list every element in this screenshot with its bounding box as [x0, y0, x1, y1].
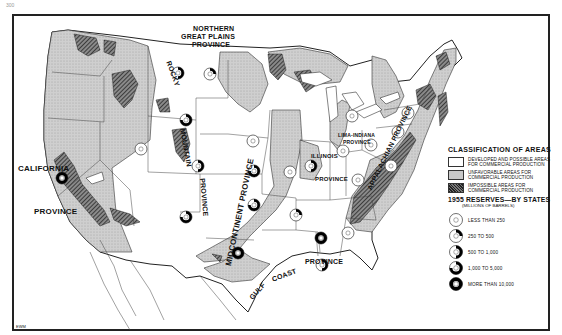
- label-illinois-province: PROVINCE: [315, 176, 348, 182]
- reserve-glyph-icon: [448, 244, 464, 260]
- reserves-legend-label: 250 TO 500: [468, 234, 494, 239]
- reserves-legend-item: 250 TO 500: [448, 228, 556, 244]
- label-california-province: PROVINCE: [34, 208, 77, 216]
- reserve-glyph-icon: [448, 212, 464, 228]
- reserve-marker-west-virginia: [385, 160, 397, 172]
- label-northern-great-plains-line2: GREAT PLAINS: [181, 33, 235, 40]
- reserves-legend-item: 1,000 TO 5,000: [448, 260, 556, 276]
- swatch-unfavorable: [448, 170, 464, 180]
- reserve-glyph-icon: [448, 260, 464, 276]
- legend-text-impossible: IMPOSSIBLE AREAS FOR COMMERCIAL PRODUCTI…: [468, 183, 556, 193]
- reserve-marker-tennessee: [342, 227, 354, 239]
- label-lima-indiana-province: PROVINCE: [343, 140, 371, 145]
- reserve-marker-utah: [135, 143, 147, 155]
- reserves-legend-label: 500 TO 1,000: [468, 250, 498, 255]
- legend: CLASSIFICATION OF AREAS DEVELOPED AND PO…: [448, 146, 556, 292]
- legend-item-developed: DEVELOPED AND POSSIBLE AREAS FOR COMMERC…: [448, 157, 556, 167]
- reserves-legend-item: 500 TO 1,000: [448, 244, 556, 260]
- reserve-marker-colorado: [192, 160, 204, 172]
- legend-item-impossible: IMPOSSIBLE AREAS FOR COMMERCIAL PRODUCTI…: [448, 183, 556, 193]
- credit: EWM: [16, 324, 26, 329]
- reserves-legend-label: LESS THAN 250: [468, 218, 505, 223]
- reserve-marker-illinois: [305, 160, 317, 172]
- label-lima-indiana: LIMA-INDIANA: [338, 133, 375, 138]
- label-illinois: ILLINOIS: [311, 153, 338, 159]
- reserve-marker-oklahoma: [248, 199, 260, 211]
- swatch-developed: [448, 157, 464, 167]
- reserve-marker-north-dakota: [204, 68, 216, 80]
- label-california: CALIFORNIA: [18, 165, 69, 173]
- reserve-marker-louisiana: [315, 232, 327, 244]
- reserve-marker-nebraska: [247, 135, 259, 147]
- label-gulf-coast-province: PROVINCE: [305, 258, 343, 265]
- reserve-marker-kentucky: [352, 174, 364, 186]
- legend-item-unfavorable: UNFAVORABLE AREAS FOR COMMERCIAL PRODUCT…: [448, 170, 556, 180]
- reserves-legend-label: 1,000 TO 5,000: [468, 266, 503, 271]
- swatch-impossible: [448, 183, 464, 193]
- reserve-marker-california: [56, 172, 68, 184]
- reserves-subtitle: (MILLIONS OF BARRELS): [462, 203, 556, 208]
- reserve-marker-arkansas: [290, 209, 302, 221]
- reserve-marker-missouri: [284, 166, 296, 178]
- reserves-legend-label: MORE THAN 10,000: [468, 282, 514, 287]
- reserve-marker-indiana: [337, 145, 349, 157]
- reserves-legend-item: LESS THAN 250: [448, 212, 556, 228]
- legend-title: CLASSIFICATION OF AREAS: [448, 146, 556, 153]
- reserve-marker-michigan: [346, 110, 358, 122]
- reserves-legend-item: MORE THAN 10,000: [448, 276, 556, 292]
- reserve-glyph-icon: [448, 276, 464, 292]
- label-northern-great-plains-line1: NORTHERN: [193, 25, 234, 32]
- reserve-glyph-icon: [448, 228, 464, 244]
- legend-text-developed: DEVELOPED AND POSSIBLE AREAS FOR COMMERC…: [468, 157, 556, 167]
- reserve-marker-new-mexico: [180, 211, 192, 223]
- reserves-legend: LESS THAN 250250 TO 500500 TO 1,0001,000…: [448, 212, 556, 292]
- legend-text-unfavorable: UNFAVORABLE AREAS FOR COMMERCIAL PRODUCT…: [468, 170, 556, 180]
- reserve-marker-wyoming: [180, 114, 192, 126]
- label-northern-great-plains-line3: PROVINCE: [192, 41, 230, 48]
- reserves-title: 1955 RESERVES—BY STATES: [448, 196, 556, 203]
